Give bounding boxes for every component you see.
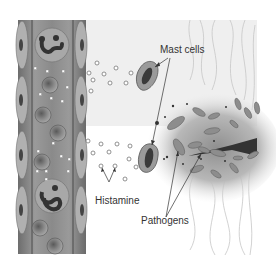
label-mast-cells: Mast cells (160, 45, 204, 55)
inflammation-diagram (0, 0, 276, 274)
label-histamine: Histamine (95, 196, 139, 206)
label-pathogens: Pathogens (141, 216, 189, 226)
white-blood-cell (35, 179, 69, 213)
neutrophil-cell (35, 28, 69, 62)
